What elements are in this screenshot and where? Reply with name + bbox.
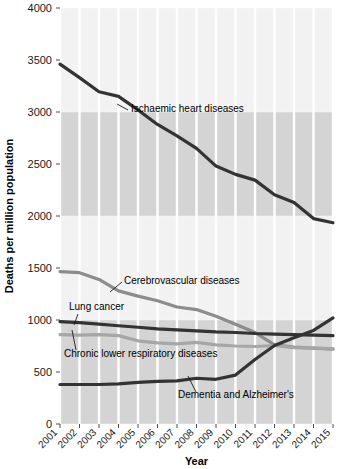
y-axis-tick-label: 1000: [28, 314, 52, 326]
series-annotation-label: Chronic lower respiratory diseases: [64, 348, 217, 359]
y-axis-tick-label: 500: [34, 366, 52, 378]
x-axis-tick-label: 2001: [36, 426, 60, 450]
y-axis-tick-label: 2500: [28, 158, 52, 170]
x-axis-tick-label: 2008: [172, 426, 196, 450]
x-axis-title: Year: [185, 455, 209, 467]
series-annotation-label: Ischaemic heart diseases: [131, 103, 244, 114]
x-axis-tick-label: 2004: [94, 426, 118, 450]
chart-container: 0500100015002000250030003500400020012002…: [0, 0, 340, 469]
y-axis-tick-label: 2000: [28, 210, 52, 222]
y-axis-tick-label: 3000: [28, 106, 52, 118]
series-annotation-label: Dementia and Alzheimer's: [178, 389, 294, 400]
x-axis-tick-label: 2005: [114, 426, 138, 450]
x-axis-tick-label: 2015: [309, 426, 333, 450]
x-axis-tick-label: 2012: [250, 426, 274, 450]
series-annotation-label: Cerebrovascular diseases: [124, 275, 240, 286]
x-axis-tick-label: 2006: [133, 426, 157, 450]
x-axis-tick-label: 2014: [289, 426, 313, 450]
y-axis-tick-label: 1500: [28, 262, 52, 274]
series-annotation-label: Lung cancer: [69, 301, 125, 312]
y-axis-tick-label: 4000: [28, 2, 52, 14]
x-axis-tick-label: 2009: [192, 426, 216, 450]
x-axis-tick-label: 2011: [231, 426, 254, 449]
x-axis-tick-label: 2002: [55, 426, 79, 450]
x-axis-tick-label: 2013: [270, 426, 294, 450]
x-axis-tick-label: 2003: [75, 426, 99, 450]
x-axis-tick-label: 2010: [211, 426, 235, 450]
x-axis-tick-label: 2007: [153, 426, 177, 450]
line-chart: 0500100015002000250030003500400020012002…: [0, 0, 340, 469]
y-axis-title: Deaths per million population: [3, 138, 15, 293]
y-axis-tick-label: 3500: [28, 54, 52, 66]
